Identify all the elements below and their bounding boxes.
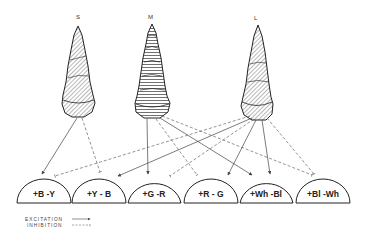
connection-s-yb-inhibition	[82, 118, 100, 172]
cell-label-yb: +Y - B	[87, 189, 111, 199]
connection-m-gr-excitation	[147, 119, 148, 174]
legend: EXCITATION INHIBITION	[25, 217, 90, 228]
connection-s-by-excitation	[42, 118, 77, 174]
cone-label-s: S	[76, 14, 80, 20]
opponent-cells	[17, 179, 350, 203]
connection-l-blwh-inhibition	[267, 118, 314, 174]
cell-label-by: +B -Y	[33, 189, 55, 199]
l-cone	[241, 25, 273, 120]
legend-excitation-label: EXCITATION	[25, 217, 63, 222]
cone-label-l: L	[254, 15, 258, 21]
m-cone	[135, 24, 170, 118]
cell-label-rg: +R - G	[198, 189, 224, 199]
connection-m-whbl-excitation	[160, 118, 252, 175]
s-cone	[62, 26, 95, 117]
cell-label-blwh: +Bl -Wh	[307, 189, 339, 199]
connection-l-rg-excitation	[228, 120, 256, 175]
cell-label-gr: +G -R	[143, 189, 166, 199]
connection-l-whbl-excitation	[262, 120, 270, 174]
cone-label-m: M	[148, 14, 153, 20]
opponent-diagram: S M L	[0, 0, 369, 238]
connections	[42, 116, 314, 176]
legend-inhibition-label: INHIBITION	[27, 223, 63, 228]
cell-label-whbl: +Wh -Bl	[250, 189, 282, 199]
